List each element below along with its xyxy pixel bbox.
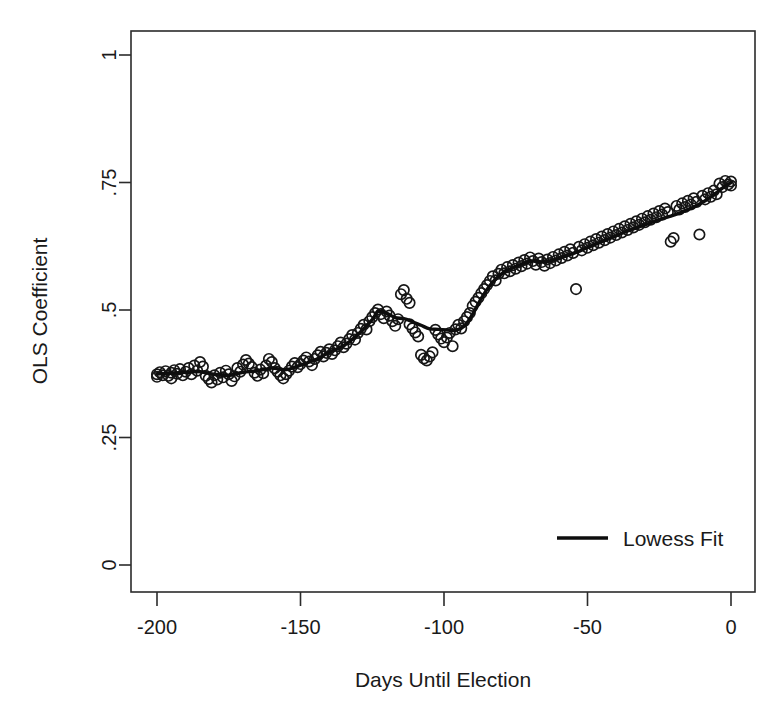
x-tick-label: -50 xyxy=(573,616,602,638)
y-tick-label: .5 xyxy=(98,302,120,319)
x-tick-label: 0 xyxy=(725,616,736,638)
chart-background xyxy=(0,0,784,727)
ols-coefficient-scatter-chart: 0.25.5.751 -200-150-100-500 Lowess Fit D… xyxy=(0,0,784,727)
chart-figure: 0.25.5.751 -200-150-100-500 Lowess Fit D… xyxy=(0,0,784,727)
x-tick-label: -150 xyxy=(280,616,320,638)
x-tick-label: -100 xyxy=(424,616,464,638)
legend-label-lowess-fit: Lowess Fit xyxy=(623,527,724,550)
x-tick-label: -200 xyxy=(137,616,177,638)
x-axis-title: Days Until Election xyxy=(355,668,531,691)
y-tick-label: 0 xyxy=(98,559,120,570)
y-tick-label: 1 xyxy=(98,49,120,60)
y-tick-label: .25 xyxy=(98,424,120,452)
y-axis-title: OLS Coefficient xyxy=(28,237,51,384)
y-tick-label: .75 xyxy=(98,169,120,197)
